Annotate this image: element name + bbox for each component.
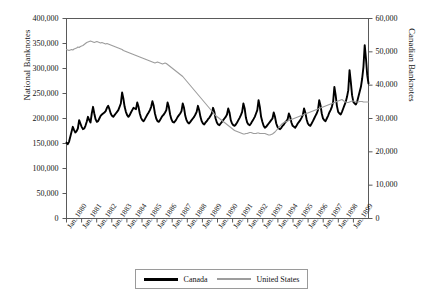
y-tick-label-right: 40,000	[376, 80, 398, 89]
legend-swatch-united-states	[217, 278, 251, 280]
y-tick-label-right: 20,000	[376, 147, 398, 156]
legend-item-canada: Canada	[144, 275, 208, 284]
legend-label-united-states: United States	[257, 275, 300, 284]
y-tick-label-right: 10,000	[376, 180, 398, 189]
series-line-united-states	[67, 41, 369, 135]
y-tick-label-left: 400,000	[0, 14, 59, 23]
series-line-canada	[67, 45, 369, 144]
y-tick-label-right: 0	[376, 214, 380, 223]
chart-legend: Canada United States	[135, 269, 308, 289]
y-tick-label-right: 60,000	[376, 14, 398, 23]
y-tick-label-right: 30,000	[376, 114, 398, 123]
y-tick-label-left: 100,000	[0, 164, 59, 173]
plot-area	[0, 0, 435, 293]
y-tick-label-left: 0	[0, 214, 59, 223]
y-tick-label-left: 50,000	[0, 189, 59, 198]
y-tick-label-left: 150,000	[0, 139, 59, 148]
legend-item-united-states: United States	[217, 275, 300, 284]
legend-swatch-canada	[144, 278, 178, 281]
legend-label-canada: Canada	[184, 275, 208, 284]
y-tick-label-left: 250,000	[0, 89, 59, 98]
y-tick-label-left: 300,000	[0, 64, 59, 73]
chart-container: National Banknotes Canadian Banknotes Ca…	[0, 0, 435, 293]
y-tick-label-left: 350,000	[0, 39, 59, 48]
y-tick-label-left: 200,000	[0, 114, 59, 123]
y-tick-label-right: 50,000	[376, 47, 398, 56]
